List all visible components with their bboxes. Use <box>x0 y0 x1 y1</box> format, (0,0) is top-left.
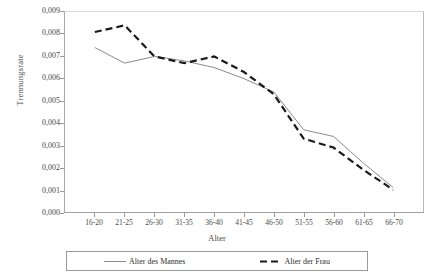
x-axis-tick-mark <box>364 213 365 217</box>
y-axis-tick-label: 0,007 <box>14 52 60 60</box>
y-axis-tick-mark <box>60 11 64 12</box>
series-line-alter-der-frau <box>95 25 393 189</box>
y-axis-tick-label: 0,005 <box>14 97 60 105</box>
x-axis-tick-mark <box>244 213 245 217</box>
legend-label: Alter des Mannes <box>129 257 185 266</box>
y-axis-tick-mark <box>60 33 64 34</box>
legend-swatch-solid-icon <box>104 258 126 265</box>
y-axis-tick-mark <box>60 101 64 102</box>
y-axis-tick-mark <box>60 146 64 147</box>
x-axis-tick-mark <box>94 213 95 217</box>
x-axis-tick-mark <box>304 213 305 217</box>
y-axis-tick-label: 0,000 <box>14 209 60 217</box>
legend-item-alter-der-frau: Alter der Frau <box>260 257 330 266</box>
y-axis-tick-mark <box>60 213 64 214</box>
legend-item-alter-des-mannes: Alter des Mannes <box>104 257 185 266</box>
y-axis-tick-label: 0,003 <box>14 142 60 150</box>
x-axis-tick-mark <box>184 213 185 217</box>
y-axis-tick-mark <box>60 168 64 169</box>
x-axis-tick-mark <box>274 213 275 217</box>
chart-legend: Alter des Mannes Alter der Frau <box>66 251 368 271</box>
y-axis-tick-label: 0,004 <box>14 119 60 127</box>
y-axis-tick-mark <box>60 56 64 57</box>
y-axis-tick-label: 0,006 <box>14 74 60 82</box>
y-axis-tick-mark <box>60 191 64 192</box>
legend-label: Alter der Frau <box>285 257 330 266</box>
y-axis-tick-mark <box>60 78 64 79</box>
x-axis-tick-mark <box>154 213 155 217</box>
y-axis-tick-label: 0,009 <box>14 7 60 15</box>
y-axis-tick-label: 0,001 <box>14 187 60 195</box>
x-axis-title: Alter <box>0 233 434 243</box>
line-chart: Trennungsrate 0,0000,0010,0020,0030,0040… <box>0 0 434 279</box>
plot-area <box>64 11 424 213</box>
x-axis-tick-mark <box>394 213 395 217</box>
legend-swatch-dashed-icon <box>260 258 282 265</box>
y-axis-tick-label: 0,002 <box>14 164 60 172</box>
x-axis-tick-mark <box>334 213 335 217</box>
x-axis-tick-mark <box>124 213 125 217</box>
y-axis-tick-label: 0,008 <box>14 29 60 37</box>
x-axis-tick-mark <box>214 213 215 217</box>
x-axis-tick-label: 66-70 <box>371 218 417 227</box>
series-line-alter-des-mannes <box>95 48 393 188</box>
y-axis-tick-mark <box>60 123 64 124</box>
series-layer <box>65 12 423 212</box>
